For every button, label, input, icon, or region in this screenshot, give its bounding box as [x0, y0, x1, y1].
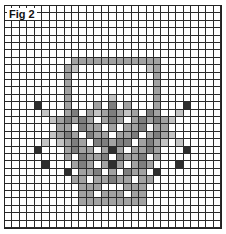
grid-cell [176, 221, 183, 228]
grid-cell [50, 198, 57, 205]
grid-cell [87, 65, 94, 72]
grid-cell [139, 102, 146, 109]
grid-cell [27, 221, 34, 228]
grid-cell [20, 184, 27, 191]
grid-cell [124, 28, 131, 35]
grid-cell [12, 154, 19, 161]
grid-cell [79, 58, 86, 65]
grid-cell [214, 213, 221, 220]
grid-cell [184, 21, 191, 28]
grid-cell [124, 95, 131, 102]
grid-cell [94, 221, 101, 228]
grid-cell [35, 191, 42, 198]
grid-cell [72, 139, 79, 146]
grid-cell [42, 28, 49, 35]
pattern-figure: Fig 2 [4, 5, 222, 229]
grid-cell [65, 161, 72, 168]
grid-cell [176, 43, 183, 50]
grid-cell [27, 102, 34, 109]
grid-cell [79, 65, 86, 72]
grid-cell [109, 221, 116, 228]
grid-cell [191, 28, 198, 35]
grid-cell [191, 6, 198, 13]
grid-cell [79, 206, 86, 213]
grid-cell [50, 110, 57, 117]
grid-cell [132, 124, 139, 131]
grid-cell [154, 13, 161, 20]
grid-cell [87, 221, 94, 228]
grid-cell [139, 21, 146, 28]
grid-cell [72, 43, 79, 50]
grid-cell [161, 21, 168, 28]
grid-cell [206, 80, 213, 87]
grid-cell [132, 28, 139, 35]
grid-cell [102, 80, 109, 87]
grid-cell [102, 65, 109, 72]
grid-cell [109, 191, 116, 198]
grid-cell [94, 80, 101, 87]
grid-cell [5, 161, 12, 168]
grid-cell [154, 147, 161, 154]
grid-cell [87, 110, 94, 117]
grid-cell [176, 124, 183, 131]
grid-cell [109, 6, 116, 13]
grid-cell [72, 95, 79, 102]
grid-cell [87, 117, 94, 124]
grid-cell [35, 36, 42, 43]
grid-cell [102, 213, 109, 220]
grid-cell [124, 65, 131, 72]
grid-cell [169, 21, 176, 28]
grid-cell [199, 73, 206, 80]
grid-cell [199, 36, 206, 43]
grid-cell [50, 50, 57, 57]
grid-cell [94, 117, 101, 124]
grid-cell [102, 36, 109, 43]
grid-cell [12, 161, 19, 168]
grid-cell [20, 28, 27, 35]
grid-cell [191, 80, 198, 87]
grid-cell [94, 13, 101, 20]
grid-cell [147, 87, 154, 94]
grid-cell [102, 43, 109, 50]
grid-cell [79, 139, 86, 146]
grid-cell [206, 13, 213, 20]
grid-cell [184, 176, 191, 183]
grid-cell [94, 58, 101, 65]
grid-cell [161, 80, 168, 87]
grid-cell [102, 198, 109, 205]
grid-cell [109, 13, 116, 20]
grid-cell [35, 73, 42, 80]
grid-cell [87, 184, 94, 191]
grid-cell [12, 28, 19, 35]
grid-cell [20, 124, 27, 131]
grid-cell [12, 102, 19, 109]
grid-cell [20, 206, 27, 213]
grid-cell [94, 169, 101, 176]
grid-cell [169, 184, 176, 191]
grid-cell [79, 36, 86, 43]
grid-cell [87, 198, 94, 205]
grid-cell [57, 13, 64, 20]
grid-cell [5, 65, 12, 72]
grid-cell [214, 58, 221, 65]
grid-cell [20, 132, 27, 139]
grid-cell [199, 124, 206, 131]
grid-cell [79, 184, 86, 191]
grid-cell [191, 213, 198, 220]
grid-cell [35, 43, 42, 50]
grid-cell [50, 28, 57, 35]
grid-cell [199, 110, 206, 117]
grid-cell [161, 176, 168, 183]
grid-cell [27, 117, 34, 124]
grid-cell [154, 117, 161, 124]
grid-cell [169, 102, 176, 109]
grid-cell [154, 110, 161, 117]
grid-cell [5, 87, 12, 94]
grid-cell [154, 139, 161, 146]
grid-cell [169, 110, 176, 117]
grid-cell [117, 95, 124, 102]
grid-cell [5, 50, 12, 57]
grid-cell [109, 73, 116, 80]
grid-cell [57, 191, 64, 198]
grid-cell [206, 169, 213, 176]
